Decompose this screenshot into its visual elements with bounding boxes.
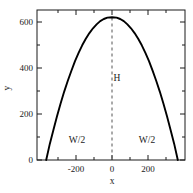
- x-tick-label-neg200: -200: [68, 164, 85, 174]
- height-marker-label: H: [114, 73, 121, 83]
- parabola-chart: 0 200 400 600 -200 0 200 x y H W/2 W/2: [0, 0, 193, 193]
- y-tick-label-0: 0: [29, 155, 34, 165]
- y-axis-title: y: [2, 85, 12, 90]
- x-tick-label-200: 200: [141, 164, 155, 174]
- half-width-left-label: W/2: [69, 135, 86, 145]
- y-tick-label-600: 600: [20, 17, 34, 27]
- x-tick-label-0: 0: [110, 164, 115, 174]
- chart-screenshot: 0 200 400 600 -200 0 200 x y H W/2 W/2: [0, 0, 193, 193]
- y-tick-label-400: 400: [20, 63, 34, 73]
- half-width-right-label: W/2: [139, 135, 156, 145]
- y-tick-label-200: 200: [20, 109, 34, 119]
- x-axis-title: x: [110, 176, 115, 186]
